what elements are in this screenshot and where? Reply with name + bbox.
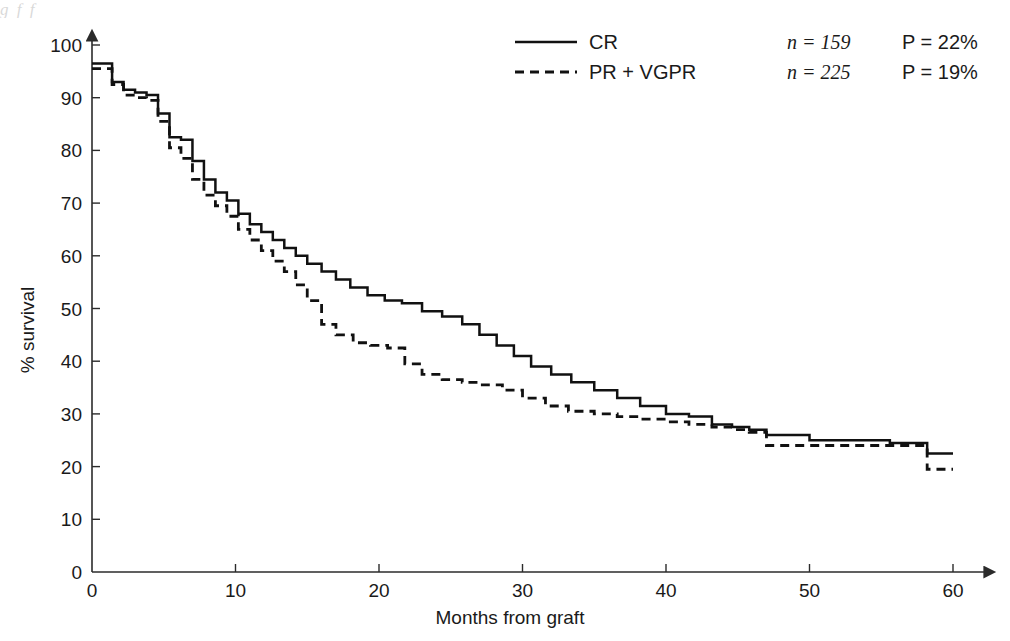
x-axis-title: Months from graft [436, 607, 586, 628]
legend-label-1: PR + VGPR [589, 61, 696, 83]
y-tick-label-20: 20 [61, 457, 82, 478]
y-tick-label-80: 80 [61, 140, 82, 161]
x-tick-label-50: 50 [799, 580, 820, 601]
y-tick-label-100: 100 [50, 35, 82, 56]
legend-p-0: P = 22% [902, 31, 978, 53]
y-tick-label-50: 50 [61, 299, 82, 320]
x-tick-label-0: 0 [87, 580, 98, 601]
x-tick-label-30: 30 [512, 580, 533, 601]
chart-canvas: 0102030405060708090100 0102030405060 % s… [0, 0, 1010, 641]
y-axis-title: % survival [17, 287, 38, 374]
axes [92, 40, 985, 572]
y-tick-label-30: 30 [61, 404, 82, 425]
legend-n-1: n = 225 [787, 61, 851, 83]
legend: CRn = 159P = 22%PR + VGPRn = 225P = 19% [515, 31, 978, 83]
x-tick-label-40: 40 [655, 580, 676, 601]
x-tick-label-20: 20 [368, 580, 389, 601]
y-tick-label-40: 40 [61, 351, 82, 372]
y-tick-label-0: 0 [71, 562, 82, 583]
legend-label-0: CR [589, 31, 618, 53]
survival-curve-pr-vgpr [92, 69, 953, 470]
y-tick-label-70: 70 [61, 193, 82, 214]
legend-n-0: n = 159 [787, 31, 851, 53]
legend-p-1: P = 19% [902, 61, 978, 83]
x-tick-label-10: 10 [225, 580, 246, 601]
x-tick-label-60: 60 [942, 580, 963, 601]
x-axis-ticks: 0102030405060 [87, 564, 964, 601]
y-tick-label-90: 90 [61, 88, 82, 109]
y-tick-label-60: 60 [61, 246, 82, 267]
y-tick-label-10: 10 [61, 509, 82, 530]
survival-chart-figure: g f f 0102030405060708090100 01020304050… [0, 0, 1010, 641]
survival-curves [92, 63, 953, 469]
